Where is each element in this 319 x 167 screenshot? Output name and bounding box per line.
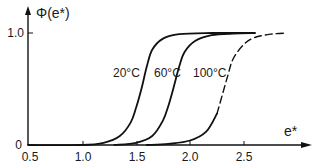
x-axis-arrow-icon xyxy=(301,142,312,148)
x-tick-label: 2.0 xyxy=(182,151,199,163)
chart: Φ(e*) e* 1.0 0 0.5 1.0 1.5 2.0 2.5 20°C … xyxy=(0,0,319,167)
curve-20c xyxy=(28,33,255,145)
curves xyxy=(28,33,287,145)
curve-label-60c: 60°C xyxy=(154,67,181,79)
curve-60c xyxy=(114,33,254,145)
x-tick-label: 2.5 xyxy=(236,151,253,163)
curve-100c-dashed xyxy=(217,33,287,114)
y-tick-label-0: 0 xyxy=(0,139,22,151)
x-tick-label: 1.5 xyxy=(129,151,146,163)
y-axis-arrow-icon xyxy=(25,6,31,15)
y-tick-label-1: 1.0 xyxy=(2,27,24,39)
curve-label-20c: 20°C xyxy=(113,67,140,79)
curve-label-100c: 100°C xyxy=(193,67,227,79)
x-axis-label: e* xyxy=(284,124,297,138)
y-axis-label: Φ(e*) xyxy=(36,6,70,20)
x-tick-label: 1.0 xyxy=(75,151,92,163)
x-tick-label: 0.5 xyxy=(22,151,39,163)
chart-plot-area xyxy=(0,0,319,167)
